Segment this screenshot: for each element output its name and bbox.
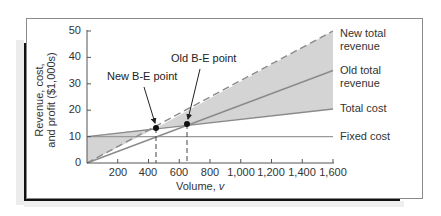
x-axis-label: Volume, v: [176, 180, 224, 192]
legend-old-total-revenue-line2: revenue: [340, 77, 381, 90]
y-tick-40: 40: [59, 50, 81, 62]
y-tick-20: 20: [59, 103, 81, 115]
y-tick-0: 0: [59, 156, 81, 168]
y-ticks: [87, 31, 91, 137]
old-be-label: Old B-E point: [171, 52, 236, 64]
legend-old-total-revenue: Old total revenue: [340, 64, 381, 90]
x-tick-1600: 1,600: [313, 166, 353, 178]
legend-fixed-cost: Fixed cost: [340, 130, 390, 143]
x-axis-label-variable: v: [219, 180, 225, 192]
legend-new-total-revenue-line1: New total: [340, 27, 386, 40]
y-axis-label: Revenue, cost, and profit ($1,000s): [33, 52, 57, 147]
new-be-arrow: [144, 87, 155, 123]
y-tick-30: 30: [59, 77, 81, 89]
y-axis-label-line1: Revenue, cost,: [33, 52, 45, 147]
x-axis-label-text: Volume,: [176, 180, 219, 192]
legend-old-total-revenue-line1: Old total: [340, 64, 381, 77]
y-tick-50: 50: [59, 24, 81, 36]
legend-new-total-revenue-line2: revenue: [340, 40, 386, 53]
y-tick-10: 10: [59, 130, 81, 142]
new-be-label: New B-E point: [107, 70, 177, 82]
legend-total-cost: Total cost: [340, 102, 386, 115]
old-revenue-line: [87, 71, 333, 164]
x-ticks: [118, 159, 333, 163]
y-axis-label-line2: and profit ($1,000s): [45, 52, 57, 147]
legend-new-total-revenue: New total revenue: [340, 27, 386, 53]
new-be-point: [153, 125, 159, 131]
old-be-point: [184, 121, 190, 127]
